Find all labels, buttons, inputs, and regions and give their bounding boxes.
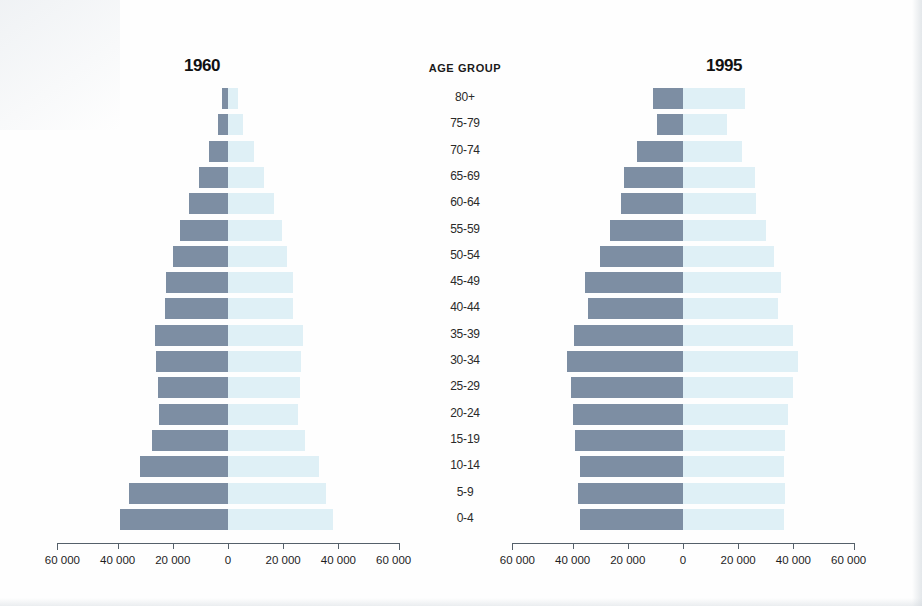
bar-male-40-44: [588, 298, 683, 319]
bar-female-70-74: [683, 141, 742, 162]
bar-female-25-29: [683, 377, 793, 398]
axis-tick: [228, 543, 229, 549]
panel-1995: 1995 60 00040 00020 000020 00040 00060 0…: [526, 0, 922, 606]
pyramid-row: [0, 220, 922, 241]
bar-male-80+: [653, 88, 683, 109]
pyramid-row: [0, 456, 922, 477]
population-pyramid-figure: 1960 60 00040 00020 000020 00040 00060 0…: [0, 0, 922, 606]
bar-male-75-79: [657, 114, 683, 135]
axis-tick-label: 20 000: [266, 554, 301, 566]
axis-tick-label: 40 000: [776, 554, 811, 566]
axis-tick-label: 0: [225, 554, 231, 566]
bar-male-15-19: [575, 430, 683, 451]
bar-female-20-24: [683, 404, 788, 425]
axis-tick: [628, 543, 629, 549]
bar-male-25-29: [571, 377, 683, 398]
axis-tick-label: 20 000: [610, 554, 645, 566]
bar-male-45-49: [585, 272, 683, 293]
pyramid-row: [0, 325, 922, 346]
axis-tick-label: 20 000: [721, 554, 756, 566]
pyramid-row: [0, 88, 922, 109]
axis-tick-label: 60 000: [45, 554, 80, 566]
axis-tick-label: 60 000: [500, 554, 535, 566]
axis-tick: [283, 543, 284, 549]
bar-female-80+: [683, 88, 745, 109]
axis-tick: [173, 543, 174, 549]
bar-male-5-9: [578, 483, 683, 504]
pyramid-row: [0, 141, 922, 162]
pyramid-row: [0, 167, 922, 188]
axis-end-cap: [399, 543, 400, 550]
bar-female-30-34: [683, 351, 798, 372]
axis-tick-label: 0: [680, 554, 686, 566]
axis-tick-label: 40 000: [321, 554, 356, 566]
bar-male-70-74: [637, 141, 683, 162]
bar-female-55-59: [683, 220, 766, 241]
bar-male-20-24: [573, 404, 683, 425]
pyramid-row: [0, 193, 922, 214]
bar-female-10-14: [683, 456, 784, 477]
axis-tick-label: 60 000: [831, 554, 866, 566]
bar-male-55-59: [610, 220, 683, 241]
bar-female-45-49: [683, 272, 781, 293]
axis-end-cap: [854, 543, 855, 550]
axis-tick: [573, 543, 574, 549]
pyramid-row: [0, 114, 922, 135]
age-group-header: AGE GROUP: [404, 62, 526, 74]
bar-male-60-64: [621, 193, 683, 214]
axis-tick-label: 20 000: [155, 554, 190, 566]
pyramid-row: [0, 483, 922, 504]
pyramid-row: [0, 430, 922, 451]
pyramid-row: [0, 272, 922, 293]
bar-female-40-44: [683, 298, 778, 319]
bar-male-65-69: [624, 167, 683, 188]
bar-male-0-4: [580, 509, 684, 530]
bar-female-5-9: [683, 483, 785, 504]
bar-male-30-34: [567, 351, 683, 372]
pyramid-row: [0, 377, 922, 398]
bar-female-0-4: [683, 509, 784, 530]
pyramid-row: [0, 351, 922, 372]
bar-male-10-14: [580, 456, 684, 477]
pyramid-row: [0, 404, 922, 425]
bar-female-35-39: [683, 325, 793, 346]
bar-male-50-54: [600, 246, 683, 267]
axis-tick-label: 40 000: [100, 554, 135, 566]
axis-end-cap: [512, 543, 513, 550]
bar-female-60-64: [683, 193, 756, 214]
pyramid-row: [0, 509, 922, 530]
bar-female-65-69: [683, 167, 755, 188]
bar-female-15-19: [683, 430, 785, 451]
pyramid-row: [0, 298, 922, 319]
axis-tick: [338, 543, 339, 549]
bar-female-75-79: [683, 114, 727, 135]
axis-tick: [118, 543, 119, 549]
axis-tick-label: 40 000: [555, 554, 590, 566]
axis-end-cap: [57, 543, 58, 550]
panel-1960-title: 1960: [0, 56, 404, 76]
pyramid-row: [0, 246, 922, 267]
axis-tick: [738, 543, 739, 549]
axis-tick: [793, 543, 794, 549]
panel-1995-title: 1995: [526, 56, 922, 76]
bar-female-50-54: [683, 246, 774, 267]
plot-area-1995: [0, 88, 922, 535]
axis-tick: [683, 543, 684, 549]
bar-male-35-39: [574, 325, 683, 346]
